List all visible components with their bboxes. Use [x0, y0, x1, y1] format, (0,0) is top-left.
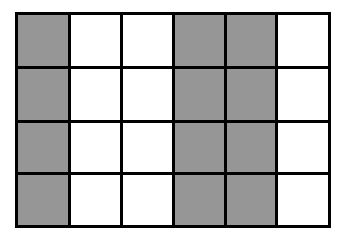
grid-cell-r3c5[interactable]: [226, 122, 277, 174]
grid-cell-r3c4[interactable]: [174, 122, 226, 174]
grid-row: [17, 14, 330, 68]
grid-cell-r4c1[interactable]: [17, 174, 70, 227]
grid-cell-r1c3[interactable]: [122, 14, 174, 68]
figure-canvas: [0, 0, 341, 240]
grid-cell-r2c2[interactable]: [70, 68, 122, 122]
grid-row: [17, 122, 330, 174]
grid-cell-r4c5[interactable]: [226, 174, 277, 227]
grid-cell-r3c2[interactable]: [70, 122, 122, 174]
grid-cell-r2c5[interactable]: [226, 68, 277, 122]
grid-cell-r1c2[interactable]: [70, 14, 122, 68]
grid-row: [17, 174, 330, 227]
shaded-grid: [15, 12, 331, 228]
grid-cell-r1c6[interactable]: [277, 14, 330, 68]
grid-cell-r1c4[interactable]: [174, 14, 226, 68]
grid-cell-r1c5[interactable]: [226, 14, 277, 68]
grid-cell-r3c3[interactable]: [122, 122, 174, 174]
grid-row: [17, 68, 330, 122]
grid-cell-r4c4[interactable]: [174, 174, 226, 227]
grid-cell-r4c3[interactable]: [122, 174, 174, 227]
grid-body: [17, 14, 330, 227]
grid-cell-r2c3[interactable]: [122, 68, 174, 122]
grid-cell-r2c6[interactable]: [277, 68, 330, 122]
grid-cell-r4c2[interactable]: [70, 174, 122, 227]
grid-cell-r3c1[interactable]: [17, 122, 70, 174]
grid-cell-r3c6[interactable]: [277, 122, 330, 174]
grid-cell-r4c6[interactable]: [277, 174, 330, 227]
grid-cell-r1c1[interactable]: [17, 14, 70, 68]
grid-cell-r2c1[interactable]: [17, 68, 70, 122]
grid-cell-r2c4[interactable]: [174, 68, 226, 122]
